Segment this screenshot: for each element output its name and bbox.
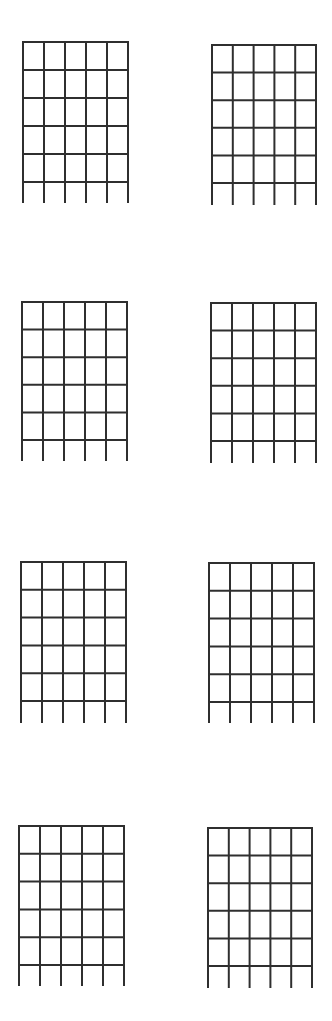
chord-diagram-4 — [210, 302, 317, 463]
chord-diagram-5 — [20, 561, 127, 723]
chord-diagram-3 — [21, 301, 128, 461]
chord-diagram-1 — [22, 41, 129, 203]
chord-diagram-6 — [208, 562, 315, 723]
fretboard-grid — [21, 301, 128, 461]
fretboard-grid — [20, 561, 127, 723]
fretboard-grid — [207, 827, 313, 988]
chord-diagram-2 — [211, 44, 317, 205]
chord-diagram-8 — [207, 827, 313, 988]
fretboard-grid — [211, 44, 317, 205]
fretboard-grid — [208, 562, 315, 723]
fretboard-grid — [22, 41, 129, 203]
fretboard-grid — [210, 302, 317, 463]
chord-diagram-7 — [18, 825, 125, 986]
fretboard-grid — [18, 825, 125, 986]
